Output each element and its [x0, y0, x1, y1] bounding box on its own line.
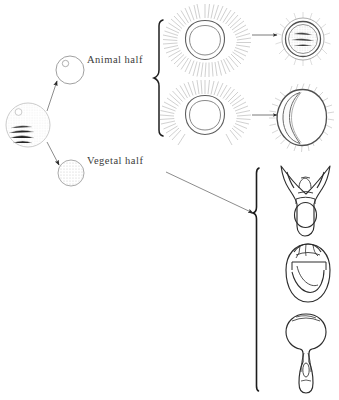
vegetal-half-brace: [253, 168, 259, 391]
gastrula-larva: [286, 244, 330, 302]
crescent-result: [269, 84, 334, 153]
elongated-larva: [286, 314, 326, 393]
ciliated-ball-result: [276, 12, 331, 66]
arrow-to-animal-half: [47, 81, 57, 111]
fertilized-egg: [6, 103, 50, 147]
arrow-to-vegetal-half: [47, 142, 59, 165]
figure-drawing: [0, 0, 339, 400]
animal-half-brace: [154, 20, 163, 136]
arrow-vegetal-to-larvae: [166, 172, 253, 213]
animal-half-label: Animal half: [87, 54, 143, 65]
vegetal-half-cell: [58, 160, 84, 186]
vegetal-half-label: Vegetal half: [87, 155, 143, 166]
pluteus-larva: [281, 166, 330, 236]
animal-half-cell: [56, 56, 84, 84]
figure-canvas: Animal half Vegetal half: [0, 0, 339, 400]
ciliated-blastula-partial: [160, 80, 251, 145]
ciliated-blastula-full: [163, 4, 251, 77]
